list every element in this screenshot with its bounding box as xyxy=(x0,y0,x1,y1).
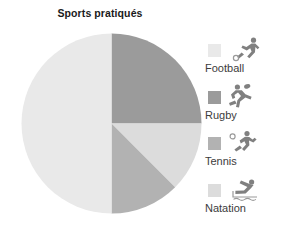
pie-slice-football[interactable] xyxy=(22,34,112,214)
pie-chart xyxy=(21,33,202,214)
pie-chart-svg xyxy=(21,33,202,214)
legend-label-tennis: Tennis xyxy=(205,155,237,167)
legend-marks xyxy=(203,83,284,110)
legend-swatch-tennis xyxy=(208,137,221,150)
tennis-player-icon xyxy=(223,129,263,156)
pie-slice-rugby[interactable] xyxy=(112,34,202,124)
legend-swatch-natation xyxy=(208,184,221,197)
football-player-icon xyxy=(223,36,263,63)
legend-item-football[interactable]: Football xyxy=(203,36,284,83)
legend-marks xyxy=(203,129,284,156)
legend-swatch-rugby xyxy=(208,91,221,104)
legend-item-natation[interactable]: Natation xyxy=(203,176,284,223)
legend-swatch-football xyxy=(208,44,221,57)
chart-title: Sports pratiqués xyxy=(0,7,200,19)
legend-item-rugby[interactable]: Rugby xyxy=(203,83,284,130)
swimmer-icon xyxy=(223,176,263,203)
chart-legend: Football Rugby xyxy=(203,36,284,222)
legend-label-natation: Natation xyxy=(205,202,246,214)
rugby-player-icon xyxy=(223,83,263,110)
legend-label-football: Football xyxy=(205,62,244,74)
legend-label-rugby: Rugby xyxy=(205,109,237,121)
legend-item-tennis[interactable]: Tennis xyxy=(203,129,284,176)
legend-marks xyxy=(203,36,284,63)
legend-marks xyxy=(203,176,284,203)
pie-slices xyxy=(22,34,202,214)
